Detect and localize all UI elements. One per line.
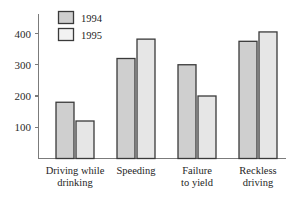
bar-1995-reckless-driving (259, 32, 277, 159)
bar-1994-reckless-driving (239, 41, 257, 158)
x-category-label-driving-while-drinking-line1: Driving while (46, 165, 105, 176)
y-tick-label-200: 200 (15, 90, 32, 102)
bar-1994-failure-to-yield (178, 65, 196, 159)
legend: 1994 1995 (59, 12, 103, 41)
chart-canvas: 100 200 300 400 Driving while drinking S… (0, 0, 289, 203)
bar-1995-speeding (137, 39, 155, 158)
x-category-label-failure-to-yield-line1: Failure (182, 165, 212, 176)
x-category-label-speeding-line1: Speeding (116, 165, 156, 176)
legend-label-1995: 1995 (81, 30, 102, 41)
bar-1995-driving-while-drinking (76, 121, 94, 159)
x-category-label-reckless-driving-line1: Reckless (239, 165, 276, 176)
y-tick-label-300: 300 (15, 59, 32, 71)
x-category-label-reckless-driving-line2: driving (243, 177, 274, 188)
legend-swatch-1994 (59, 12, 74, 24)
bar-1995-failure-to-yield (198, 96, 216, 159)
x-category-label-failure-to-yield-line2: to yield (181, 177, 214, 188)
x-category-label-driving-while-drinking-line2: drinking (57, 177, 93, 188)
y-tick-label-100: 100 (15, 121, 32, 133)
bar-1994-speeding (117, 59, 135, 159)
bar-1994-driving-while-drinking (56, 102, 74, 158)
y-tick-label-400: 400 (15, 28, 32, 40)
bar-chart-figure: 100 200 300 400 Driving while drinking S… (0, 0, 289, 203)
legend-label-1994: 1994 (81, 13, 103, 24)
legend-swatch-1995 (59, 29, 74, 41)
